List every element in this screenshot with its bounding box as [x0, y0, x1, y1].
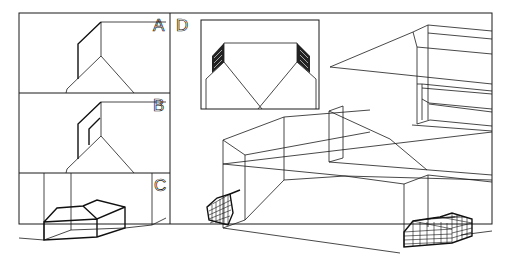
panel-b: B — [66, 96, 166, 173]
inset-plan-view — [201, 20, 319, 109]
panel-d: D — [176, 16, 492, 253]
panel-a: A — [66, 16, 166, 93]
panel-c: C — [19, 173, 166, 240]
panel-b-label: B — [153, 96, 164, 115]
grid-object-right — [404, 213, 472, 247]
panel-c-label: C — [154, 176, 166, 195]
panel-a-label: A — [153, 16, 165, 35]
figure: A B C D — [0, 0, 511, 270]
grid-object-left — [207, 190, 240, 225]
upper-room-wireframe — [330, 25, 492, 131]
outer-frame — [19, 13, 492, 224]
panel-d-label: D — [176, 16, 188, 35]
